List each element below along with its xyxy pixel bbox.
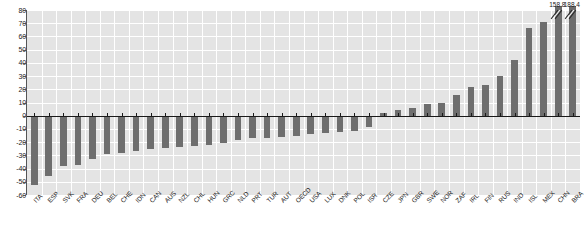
gridline-vertical xyxy=(376,10,377,195)
x-axis-tick-mark xyxy=(107,113,108,116)
bar[interactable] xyxy=(555,6,562,116)
x-axis-tick-mark xyxy=(223,113,224,116)
bar[interactable] xyxy=(264,116,271,138)
gridline-vertical xyxy=(260,10,261,195)
x-axis-tick-mark xyxy=(369,113,370,116)
gridline-vertical xyxy=(434,10,435,195)
bar[interactable] xyxy=(235,116,242,140)
gridline-vertical xyxy=(522,10,523,195)
bar[interactable] xyxy=(278,116,285,137)
y-axis-tick-mark xyxy=(23,155,26,156)
x-axis-tick-mark xyxy=(485,113,486,116)
bar[interactable] xyxy=(511,60,518,116)
x-axis-tick-mark xyxy=(34,113,35,116)
bar[interactable] xyxy=(176,116,183,148)
bar[interactable] xyxy=(569,6,576,116)
x-axis-tick-mark xyxy=(544,113,545,116)
y-axis-tick-mark xyxy=(23,76,26,77)
gridline-vertical xyxy=(347,10,348,195)
bar[interactable] xyxy=(118,116,125,154)
bar-value-label: 188.4 xyxy=(564,1,580,8)
x-axis-tick-mark xyxy=(92,113,93,116)
gridline-vertical xyxy=(565,10,566,195)
x-axis-tick-mark xyxy=(398,113,399,116)
bar[interactable] xyxy=(468,87,475,116)
bar[interactable] xyxy=(482,85,489,115)
gridline-vertical xyxy=(304,10,305,195)
bar[interactable] xyxy=(75,116,82,166)
gridline-vertical xyxy=(274,10,275,195)
gridline-vertical xyxy=(71,10,72,195)
bar[interactable] xyxy=(60,116,67,166)
bar[interactable] xyxy=(133,116,140,152)
bar[interactable] xyxy=(337,116,344,133)
bar[interactable] xyxy=(293,116,300,136)
gridline-vertical xyxy=(493,10,494,195)
bar[interactable] xyxy=(162,116,169,148)
gridline-vertical xyxy=(129,10,130,195)
gridline-vertical xyxy=(420,10,421,195)
y-axis-tick-mark xyxy=(23,169,26,170)
bar[interactable] xyxy=(147,116,154,150)
y-axis-tick-mark xyxy=(23,103,26,104)
gridline-vertical xyxy=(362,10,363,195)
bar[interactable] xyxy=(89,116,96,159)
x-axis-tick-mark xyxy=(151,113,152,116)
y-axis-tick-mark xyxy=(23,63,26,64)
x-axis-tick-mark xyxy=(427,113,428,116)
gridline-vertical xyxy=(507,10,508,195)
gridline-vertical xyxy=(158,10,159,195)
x-axis-tick-mark xyxy=(573,113,574,116)
bar[interactable] xyxy=(526,28,533,116)
y-axis-tick-mark xyxy=(23,23,26,24)
bar[interactable] xyxy=(191,116,198,146)
gridline-vertical xyxy=(231,10,232,195)
gridline-vertical xyxy=(216,10,217,195)
gridline-vertical xyxy=(289,10,290,195)
x-axis-tick-mark xyxy=(456,113,457,116)
x-axis-tick-mark xyxy=(384,113,385,116)
bar[interactable] xyxy=(351,116,358,131)
bar[interactable] xyxy=(220,116,227,144)
x-axis-tick-mark xyxy=(471,113,472,116)
y-axis-tick-mark xyxy=(23,129,26,130)
x-axis-tick-mark xyxy=(325,113,326,116)
x-axis-tick-mark xyxy=(354,113,355,116)
x-axis-tick-mark xyxy=(194,113,195,116)
y-axis-tick-mark xyxy=(23,89,26,90)
x-axis-tick-mark xyxy=(515,113,516,116)
gridline-vertical xyxy=(42,10,43,195)
bar[interactable] xyxy=(31,116,38,185)
gridline-vertical xyxy=(318,10,319,195)
bar[interactable] xyxy=(249,116,256,138)
gridline-vertical xyxy=(405,10,406,195)
bar[interactable] xyxy=(206,116,213,146)
gridline-vertical xyxy=(551,10,552,195)
y-axis-tick-mark xyxy=(23,10,26,11)
gridline-vertical xyxy=(391,10,392,195)
gridline-vertical xyxy=(114,10,115,195)
bar[interactable] xyxy=(497,76,504,116)
bar[interactable] xyxy=(322,116,329,133)
bar[interactable] xyxy=(366,116,373,127)
zero-baseline xyxy=(27,116,580,117)
gridline-vertical xyxy=(536,10,537,195)
bar[interactable] xyxy=(540,22,547,116)
x-axis-tick-mark xyxy=(49,113,50,116)
x-axis-tick-mark xyxy=(165,113,166,116)
x-axis-tick-mark xyxy=(442,113,443,116)
y-axis-tick-mark xyxy=(23,36,26,37)
bar[interactable] xyxy=(104,116,111,154)
gridline-vertical xyxy=(464,10,465,195)
x-axis-tick-mark xyxy=(558,113,559,116)
x-axis-tick-mark xyxy=(180,113,181,116)
x-axis-tick-mark xyxy=(63,113,64,116)
x-axis-tick-mark xyxy=(413,113,414,116)
gridline-vertical xyxy=(478,10,479,195)
bar[interactable] xyxy=(45,116,52,176)
x-axis-tick-mark xyxy=(282,113,283,116)
gridline-vertical xyxy=(173,10,174,195)
bar[interactable] xyxy=(307,116,314,134)
gridline-vertical xyxy=(202,10,203,195)
